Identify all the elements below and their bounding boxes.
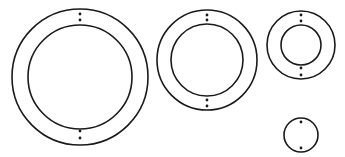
marker-dot [300,121,303,124]
inner-circle [28,25,132,129]
marker-dot [300,67,303,70]
marker-dot [206,14,209,17]
disc-tiny [284,118,318,152]
ring-small [267,11,335,79]
marker-dot [79,13,82,16]
ring-medium [157,10,257,110]
ring-diagram [0,0,345,157]
marker-dot [206,105,209,108]
inner-circle [281,25,321,65]
marker-dot [206,99,209,102]
inner-circle [171,24,243,96]
marker-dot [79,137,82,140]
ring-large [12,9,148,145]
marker-dot [206,19,209,22]
marker-dot [300,147,303,150]
marker-dot [79,19,82,22]
outer-circle [12,9,148,145]
marker-dot [300,74,303,77]
marker-dot [300,14,303,17]
marker-dot [79,130,82,133]
marker-dot [300,20,303,23]
outer-circle [157,10,257,110]
